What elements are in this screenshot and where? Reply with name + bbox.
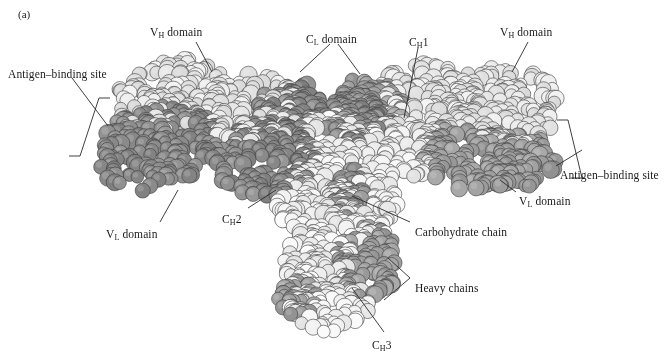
- label-vl-domain-left: VL domain: [106, 228, 157, 240]
- label-text: C: [372, 339, 380, 351]
- label-text-post: domain: [319, 33, 357, 45]
- label-text: Carbohydrate chain: [415, 226, 507, 238]
- label-ch2: CH2: [222, 213, 242, 225]
- label-text-post: domain: [164, 26, 202, 38]
- label-ch1: CH1: [409, 36, 429, 48]
- label-text-post: 2: [236, 213, 242, 225]
- label-subscript: H: [508, 31, 514, 40]
- panel-label: (a): [18, 8, 30, 20]
- label-antigen-binding-site-left: Antigen–binding site: [8, 68, 107, 80]
- label-vh-domain-right: VH domain: [500, 26, 552, 38]
- label-text-post: 1: [423, 36, 429, 48]
- label-text-post: domain: [119, 228, 157, 240]
- label-subscript: H: [380, 344, 386, 353]
- label-subscript: L: [114, 233, 119, 242]
- label-text: C: [222, 213, 230, 225]
- label-subscript: H: [417, 41, 423, 50]
- label-text: Antigen–binding site: [8, 68, 107, 80]
- label-subscript: L: [527, 200, 532, 209]
- label-text-post: domain: [514, 26, 552, 38]
- label-subscript: H: [158, 31, 164, 40]
- antibody-space-filling-model: [0, 0, 665, 364]
- label-text-post: 3: [386, 339, 392, 351]
- label-text-post: domain: [532, 195, 570, 207]
- label-text: C: [409, 36, 417, 48]
- label-carbohydrate-chain: Carbohydrate chain: [415, 226, 507, 238]
- label-text: Heavy chains: [415, 282, 478, 294]
- label-vh-domain-left: VH domain: [150, 26, 202, 38]
- label-antigen-binding-site-right: Antigen–binding site: [560, 169, 659, 181]
- label-heavy-chains: Heavy chains: [415, 282, 478, 294]
- label-cl-domain: CL domain: [306, 33, 357, 45]
- label-vl-domain-right: VL domain: [519, 195, 570, 207]
- antibody-figure: (a) Antigen–binding siteVH domainCL doma…: [0, 0, 665, 364]
- label-ch3: CH3: [372, 339, 392, 351]
- label-text: C: [306, 33, 314, 45]
- label-subscript: L: [314, 38, 319, 47]
- label-text: Antigen–binding site: [560, 169, 659, 181]
- label-subscript: H: [230, 218, 236, 227]
